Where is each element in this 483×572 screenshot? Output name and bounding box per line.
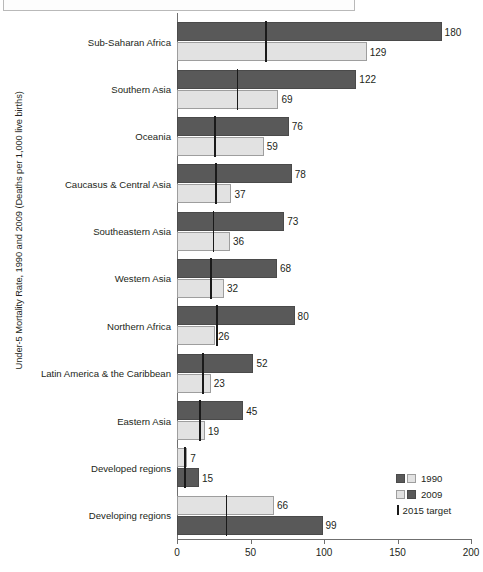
- x-axis-tick: [324, 539, 325, 544]
- bar-1990: 78: [177, 164, 292, 183]
- bar-1990: 180: [177, 22, 442, 41]
- chart-row: Western Asia6832: [177, 255, 471, 302]
- x-axis-tick: [251, 539, 252, 544]
- target-marker-2015: [237, 69, 239, 110]
- chart-row: Eastern Asia4519: [177, 397, 471, 444]
- target-marker-2015: [199, 400, 201, 441]
- bar-value-label: 180: [445, 26, 462, 37]
- category-label: Southern Asia: [111, 84, 171, 95]
- chart-row: Sub-Saharan Africa180129: [177, 18, 471, 65]
- bar-value-label: 129: [370, 46, 387, 57]
- bar-value-label: 73: [287, 216, 298, 227]
- target-marker-2015: [216, 305, 218, 346]
- legend-item-target: 2015 target: [396, 503, 451, 517]
- category-label: Northern Africa: [107, 320, 171, 331]
- category-label: Western Asia: [115, 273, 171, 284]
- bar-value-label: 7: [190, 452, 196, 463]
- bar-1990: 80: [177, 306, 295, 325]
- bar-value-label: 68: [280, 263, 291, 274]
- target-marker-2015: [214, 116, 216, 157]
- legend: 1990 2009 2015 target: [396, 471, 451, 519]
- y-axis-title: Under-5 Mortality Rate, 1990 and 2009 (D…: [13, 112, 24, 370]
- x-axis-tick-label: 50: [245, 547, 256, 558]
- bar-2009: 69: [177, 90, 278, 109]
- category-label: Caucasus & Central Asia: [65, 178, 171, 189]
- chart-row: Oceania7659: [177, 113, 471, 160]
- x-axis-tick-label: 100: [316, 547, 333, 558]
- legend-swatch-light-icon: [396, 490, 405, 499]
- bar-value-label: 69: [281, 94, 292, 105]
- bar-1990: 52: [177, 354, 253, 373]
- target-marker-2015: [265, 21, 267, 62]
- legend-swatch-light-icon: [407, 474, 416, 483]
- category-label: Southeastern Asia: [93, 226, 171, 237]
- category-label: Eastern Asia: [117, 415, 171, 426]
- bar-value-label: 45: [246, 405, 257, 416]
- bar-2009: 23: [177, 374, 211, 393]
- legend-swatch-dark-icon: [407, 490, 416, 499]
- target-marker-2015: [226, 495, 228, 536]
- legend-label-2009: 2009: [421, 489, 442, 500]
- bar-value-label: 66: [277, 500, 288, 511]
- bar-1990: 76: [177, 117, 289, 136]
- bar-value-label: 15: [202, 472, 213, 483]
- bar-2009: 36: [177, 232, 230, 251]
- title-box: [3, 0, 355, 11]
- chart-row: Latin America & the Caribbean5223: [177, 350, 471, 397]
- bar-value-label: 26: [218, 330, 229, 341]
- bar-2009: 129: [177, 42, 367, 61]
- bar-2009: 37: [177, 184, 231, 203]
- category-label: Sub-Saharan Africa: [88, 36, 171, 47]
- bar-value-label: 19: [208, 425, 219, 436]
- plot-area: 050100150200Sub-Saharan Africa180129Sout…: [177, 18, 471, 539]
- bar-value-label: 37: [234, 188, 245, 199]
- target-marker-2015: [210, 258, 212, 299]
- target-marker-2015: [202, 353, 204, 394]
- x-axis-tick: [471, 539, 472, 544]
- bar-1990: 99: [177, 516, 323, 535]
- bar-2009: 32: [177, 279, 224, 298]
- category-label: Developing regions: [89, 510, 171, 521]
- target-marker-2015: [184, 447, 186, 488]
- chart-row: Southeastern Asia7336: [177, 207, 471, 254]
- target-marker-2015: [215, 163, 217, 204]
- bar-1990: 122: [177, 70, 356, 89]
- bar-value-label: 78: [295, 168, 306, 179]
- chart-row: Northern Africa8026: [177, 302, 471, 349]
- legend-item-2009: 2009: [396, 487, 451, 501]
- chart-container: Under-5 Mortality Rate, 1990 and 2009 (D…: [0, 0, 483, 572]
- chart-row: Caucasus & Central Asia7837: [177, 160, 471, 207]
- x-axis-tick-label: 150: [389, 547, 406, 558]
- bar-1990: 68: [177, 259, 277, 278]
- bar-value-label: 76: [292, 121, 303, 132]
- legend-label-target: 2015 target: [403, 505, 452, 516]
- bar-value-label: 80: [298, 310, 309, 321]
- legend-swatch-dark-icon: [396, 474, 405, 483]
- bar-value-label: 122: [359, 74, 376, 85]
- bar-1990: 45: [177, 401, 243, 420]
- target-marker-2015: [213, 211, 215, 252]
- x-axis-tick-label: 200: [463, 547, 480, 558]
- legend-label-1990: 1990: [421, 473, 442, 484]
- bar-1990: 73: [177, 212, 284, 231]
- bar-value-label: 32: [227, 283, 238, 294]
- target-line-icon: [397, 505, 399, 515]
- legend-item-1990: 1990: [396, 471, 451, 485]
- bar-value-label: 52: [256, 358, 267, 369]
- x-axis-tick: [177, 539, 178, 544]
- bar-2009: 26: [177, 326, 215, 345]
- bar-value-label: 36: [233, 236, 244, 247]
- chart-row: Southern Asia12269: [177, 65, 471, 112]
- bar-value-label: 99: [326, 520, 337, 531]
- bar-2009: 19: [177, 421, 205, 440]
- category-label: Latin America & the Caribbean: [41, 368, 171, 379]
- bar-2009: 59: [177, 137, 264, 156]
- x-axis-tick: [398, 539, 399, 544]
- bar-1990: 15: [177, 468, 199, 487]
- category-label: Developed regions: [91, 462, 171, 473]
- bar-value-label: 23: [214, 378, 225, 389]
- bar-value-label: 59: [267, 141, 278, 152]
- category-label: Oceania: [135, 131, 171, 142]
- x-axis-tick-label: 0: [174, 547, 180, 558]
